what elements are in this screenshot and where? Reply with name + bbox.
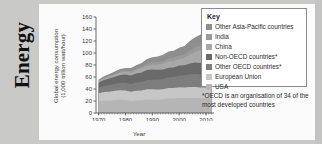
stacked-area-chart: 020406080100120140160 197019801990200020… <box>64 9 217 121</box>
legend-title: Key <box>207 12 302 21</box>
y-tick-label: 120 <box>82 38 93 44</box>
legend-item: Non-OECD countries* <box>206 52 302 62</box>
legend-item: China <box>206 42 302 52</box>
y-tick-label: 20 <box>85 98 92 104</box>
legend-item-label: USA <box>215 82 228 92</box>
legend-item-label: Other OECD countries* <box>215 62 281 72</box>
right-margin-strip <box>315 0 322 144</box>
y-tick-label: 100 <box>82 50 93 56</box>
y-tick-label: 40 <box>85 86 92 92</box>
area-band <box>99 98 212 113</box>
y-tick-label: 160 <box>82 14 93 20</box>
legend-swatch-icon <box>206 34 212 40</box>
legend: Key Other Asia-Pacific countriesIndiaChi… <box>201 8 307 87</box>
legend-swatch-icon <box>206 24 212 30</box>
legend-item: Other Asia-Pacific countries <box>206 22 302 32</box>
y-tick-label: 140 <box>82 26 93 32</box>
legend-item: European Union <box>206 72 302 82</box>
section-title: Energy <box>11 7 33 103</box>
legend-swatch-icon <box>206 44 212 50</box>
y-tick-label: 80 <box>85 62 92 68</box>
legend-item-label: India <box>215 32 229 42</box>
legend-item-label: Non-OECD countries* <box>215 52 278 62</box>
x-tick-label: 1980 <box>119 117 133 121</box>
legend-swatch-icon <box>206 84 212 90</box>
x-tick-label: 1990 <box>146 117 160 121</box>
legend-item: Other OECD countries* <box>206 62 302 72</box>
footnote: *OECD is an organisation of 34 of the mo… <box>202 92 310 109</box>
legend-swatch-icon <box>206 74 212 80</box>
legend-item: India <box>206 32 302 42</box>
x-axis-title: Year <box>99 130 179 137</box>
legend-swatch-icon <box>206 54 212 60</box>
y-tick-group: 020406080100120140160 <box>82 14 96 116</box>
legend-item-label: China <box>215 42 232 52</box>
energy-figure-page: Energy Global energy consumption (1,000 … <box>0 0 322 144</box>
legend-item: USA <box>206 82 302 92</box>
legend-swatch-icon <box>206 64 212 70</box>
figure-panel: Global energy consumption (1,000 trillio… <box>39 4 315 140</box>
x-tick-label: 2000 <box>172 117 186 121</box>
y-tick-label: 0 <box>89 110 93 116</box>
x-tick-label: 2010 <box>199 117 213 121</box>
plot-area: 020406080100120140160 197019801990200020… <box>64 9 217 121</box>
area-series-group <box>99 27 212 113</box>
y-tick-label: 60 <box>85 74 92 80</box>
legend-items: Other Asia-Pacific countriesIndiaChinaNo… <box>206 22 302 92</box>
legend-item-label: Other Asia-Pacific countries <box>215 22 294 32</box>
legend-item-label: European Union <box>215 72 261 82</box>
y-axis-title-line1: Global energy consumption <box>52 29 59 103</box>
x-tick-label: 1970 <box>92 117 106 121</box>
